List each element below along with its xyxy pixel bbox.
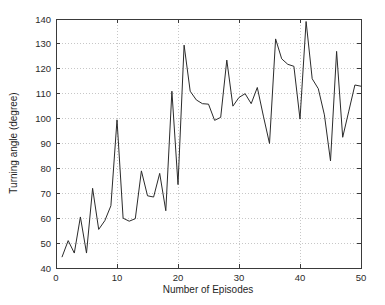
y-tick-label: 60	[40, 213, 51, 224]
y-tick-label: 40	[40, 263, 51, 274]
y-tick-label: 130	[35, 38, 51, 49]
chart-figure: 40506070809010011012013014001020304050 N…	[0, 0, 385, 305]
data-series	[62, 21, 361, 256]
y-tick-label: 100	[35, 113, 51, 124]
data-line-turning-angle	[62, 21, 361, 256]
y-tick-label: 140	[35, 14, 51, 25]
x-axis-title: Number of Episodes	[163, 284, 254, 295]
y-tick-label: 50	[40, 238, 51, 249]
x-tick-label: 50	[356, 272, 367, 283]
y-tick-label: 110	[36, 88, 51, 99]
y-tick-label: 120	[35, 63, 51, 74]
gridlines	[56, 19, 361, 268]
x-tick-label: 40	[295, 272, 306, 283]
x-tick-label: 30	[234, 272, 245, 283]
y-tick-label: 70	[40, 188, 51, 199]
x-tick-label: 10	[112, 272, 123, 283]
y-tick-label: 90	[40, 138, 51, 149]
x-tick-label: 20	[173, 272, 184, 283]
y-tick-label: 80	[40, 163, 51, 174]
y-axis-title: Turning angle (degree)	[8, 92, 19, 193]
x-tick-label: 0	[53, 272, 58, 283]
line-chart-plot: 40506070809010011012013014001020304050 N…	[0, 0, 385, 305]
